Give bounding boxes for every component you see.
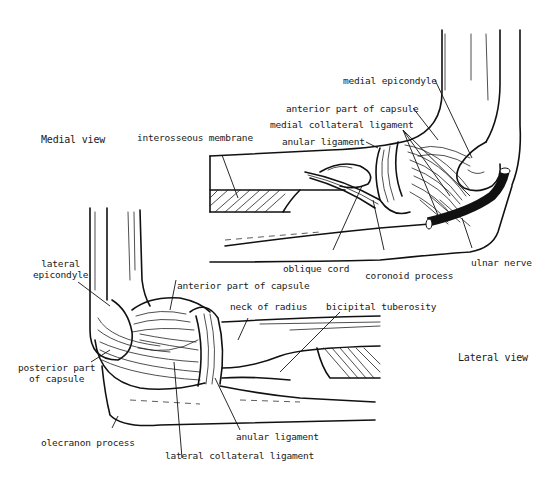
label-medial-epicondyle: medial epicondyle: [343, 75, 437, 86]
label-olecranon-process: olecranon process: [41, 437, 135, 448]
label-anular-ligament-lateral: anular ligament: [236, 431, 319, 442]
medial-view-drawing: [210, 30, 520, 262]
label-interosseous-membrane: interosseous membrane: [137, 132, 253, 143]
medial-view-title: Medial view: [41, 134, 105, 145]
label-anterior-part-of-capsule-medial: anterior part of capsule: [286, 103, 418, 114]
label-oblique-cord: oblique cord: [283, 263, 349, 274]
label-lateral-epicondyle-line2: epicondyle: [33, 269, 88, 280]
label-medial-collateral-ligament: medial collateral ligament: [270, 119, 414, 130]
label-posterior-capsule-line1: posterior part: [18, 362, 95, 373]
label-posterior-capsule-line2: of capsule: [18, 373, 95, 384]
label-anterior-part-of-capsule-lateral: anterior part of capsule: [177, 280, 309, 291]
label-lateral-collateral-ligament: lateral collateral ligament: [165, 450, 314, 461]
label-lateral-epicondyle-line1: lateral: [33, 258, 88, 269]
label-bicipital-tuberosity: bicipital tuberosity: [326, 301, 436, 312]
lateral-view-title: Lateral view: [458, 352, 528, 363]
label-coronoid-process: coronoid process: [365, 270, 453, 281]
label-posterior-part-of-capsule: posterior part of capsule: [18, 362, 95, 384]
elbow-ligament-diagram: Medial view Lateral view medial epicondy…: [0, 0, 557, 492]
diagram-artwork: [0, 0, 557, 492]
label-anular-ligament-medial: anular ligament: [282, 136, 365, 147]
label-lateral-epicondyle: lateral epicondyle: [33, 258, 88, 280]
label-neck-of-radius: neck of radius: [230, 301, 307, 312]
label-ulnar-nerve: ulnar nerve: [471, 257, 532, 268]
